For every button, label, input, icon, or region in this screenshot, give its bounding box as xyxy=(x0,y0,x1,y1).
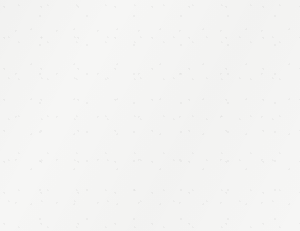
bar-college-c xyxy=(152,125,192,201)
bar-chart-figure: 2010 ENROLLMENT AT FIVE COLLEGES Enrollm… xyxy=(0,0,300,231)
bar-college-a xyxy=(63,144,103,201)
bar-college-b xyxy=(108,135,148,202)
x-axis-tick-mark xyxy=(238,202,239,206)
x-axis-tick-label: College E xyxy=(245,206,274,213)
gridline xyxy=(61,32,281,33)
y-axis-title-text: Enrollment xyxy=(9,74,24,137)
x-axis-tick-mark xyxy=(282,202,283,206)
x-axis-tick-mark xyxy=(104,202,105,206)
x-axis-tick-label: College D xyxy=(200,206,230,213)
x-axis-tick-mark xyxy=(149,202,150,206)
x-axis-tick-mark xyxy=(60,202,61,206)
plot-area xyxy=(60,31,282,202)
bar-college-d xyxy=(196,78,236,202)
chart-title: 2010 ENROLLMENT AT FIVE COLLEGES xyxy=(0,11,300,22)
x-axis-tick-mark xyxy=(193,202,194,206)
x-axis-tick-label: College A xyxy=(68,206,97,213)
x-axis-tick-label: College C xyxy=(156,206,186,213)
bar-college-e xyxy=(241,49,281,201)
x-axis-tick-label: College B xyxy=(112,206,141,213)
y-axis-title: Enrollment xyxy=(9,50,23,160)
